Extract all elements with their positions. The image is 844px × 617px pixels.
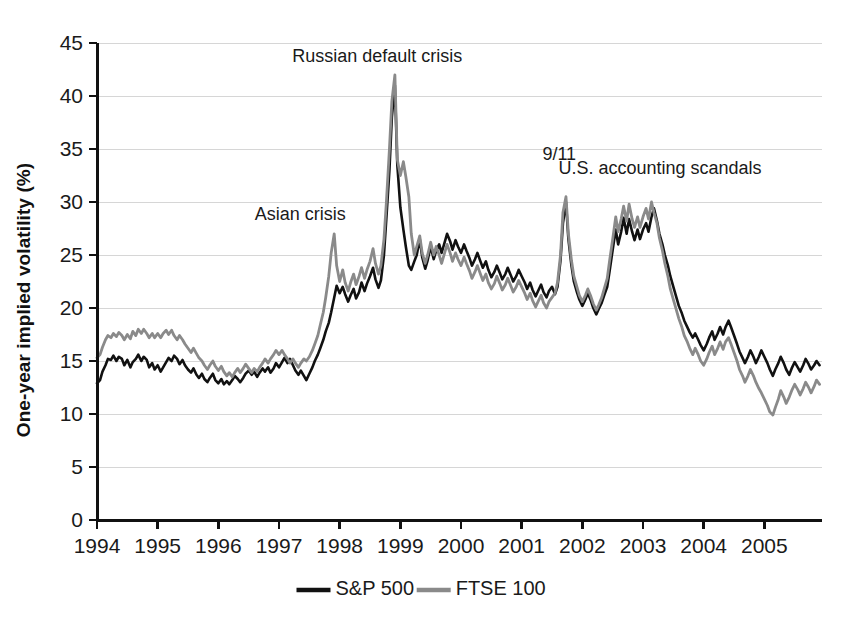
implied-volatility-line-chart: 051015202530354045 199419951996199719981…	[0, 0, 844, 617]
y-tick-label-25: 25	[60, 243, 83, 266]
x-tick-label-1994: 1994	[74, 534, 121, 557]
x-tick-label-1995: 1995	[134, 534, 181, 557]
y-tick-label-35: 35	[60, 137, 83, 160]
x-tick-label-2002: 2002	[559, 534, 606, 557]
x-tick-label-2000: 2000	[438, 534, 485, 557]
x-tick-label-2004: 2004	[680, 534, 727, 557]
x-tick-label-1997: 1997	[256, 534, 303, 557]
x-tick-label-2001: 2001	[498, 534, 545, 557]
x-tick-label-2005: 2005	[741, 534, 788, 557]
x-tick-label-2003: 2003	[620, 534, 667, 557]
y-tick-label-20: 20	[60, 296, 83, 319]
y-tick-label-40: 40	[60, 84, 83, 107]
y-tick-label-10: 10	[60, 402, 83, 425]
annotation-asian-crisis: Asian crisis	[255, 204, 346, 224]
y-tick-label-45: 45	[60, 31, 83, 54]
x-tick-label-1996: 1996	[195, 534, 242, 557]
y-tick-label-0: 0	[71, 508, 83, 531]
y-axis-title: One-year implied volatility (%)	[13, 163, 34, 437]
volatility-chart-figure: 051015202530354045 199419951996199719981…	[0, 0, 844, 617]
annotation-us-accounting-scandals: U.S. accounting scandals	[558, 158, 761, 178]
y-tick-label-15: 15	[60, 349, 83, 372]
x-tick-label-1998: 1998	[316, 534, 363, 557]
y-tick-label-5: 5	[71, 455, 83, 478]
legend-label-ftse100: FTSE 100	[456, 577, 546, 599]
annotation-russian-default-crisis: Russian default crisis	[292, 46, 462, 66]
x-tick-label-1999: 1999	[377, 534, 424, 557]
y-tick-label-30: 30	[60, 190, 83, 213]
legend-label-sp500: S&P 500	[336, 577, 415, 599]
